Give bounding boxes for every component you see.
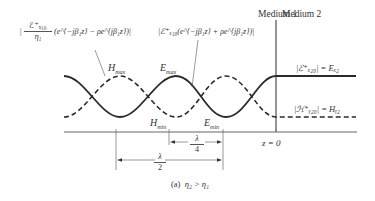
e-min-label: Emin [204,118,219,128]
z-zero-label: z = 0 [262,138,281,148]
h-formula-denominator: η₁ [24,32,52,42]
h-formula-open-bar: | [20,27,22,37]
quarter-wavelength-label: λ 4 [190,134,204,155]
h-formula-expression: (e^{−jβ₁z} − ρe^{jβ₁z})| [54,27,131,37]
medium2-label: Medium 2 [282,9,321,19]
e-formula-leader [192,40,198,87]
e-transmitted-label: |ℰ⁺ₓ₂₀| = Eₓ₂ [296,63,339,73]
h-formula-fraction: ℰ⁺ₓ₁₀ η₁ [24,21,52,42]
e-formula: |ℰ⁺ₓ₁₀(e^{−jβ₁z} + ρe^{jβ₁z})| [158,27,254,37]
h-max-label: Hmax [108,63,125,73]
e-max-label: Emax [160,63,176,73]
h-min-label: Hmin [150,118,166,128]
h-transmitted-label: |ℋ⁺ᵧ₂₀| = Hᵧ₂ [294,104,340,114]
half-wavelength-label: λ 2 [154,152,166,173]
h-formula-leader [95,50,105,76]
caption: (a) η₂ > η₁ [171,179,209,189]
h-formula-numerator: ℰ⁺ₓ₁₀ [24,21,52,32]
